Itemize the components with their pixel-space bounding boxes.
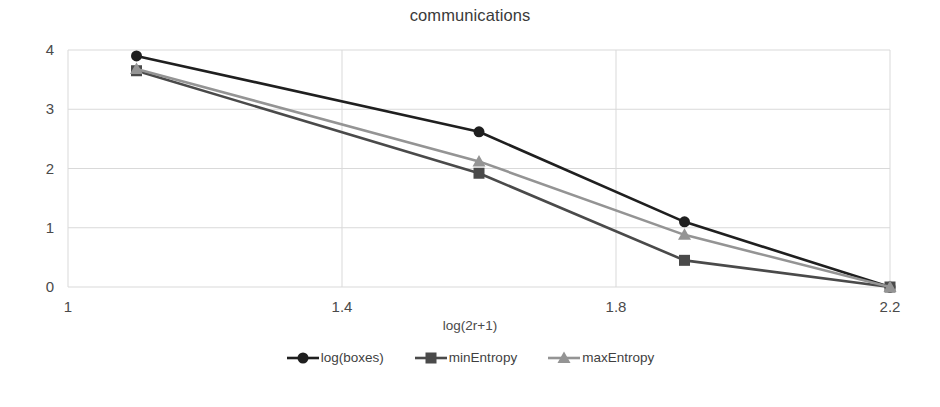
data-point-marker [679,216,690,227]
chart-legend: log(boxes)minEntropymaxEntropy [0,351,940,365]
legend-marker-triangle-icon [547,351,581,365]
legend-marker-circle-icon [286,351,320,365]
series-log(boxes) [131,50,896,292]
data-point-marker [679,255,690,266]
y-tick-label: 2 [46,160,54,177]
plot-area: 11.41.82.2 01234 log(2r+1) [0,0,940,351]
y-tick-label: 3 [46,100,54,117]
x-axis-tick-labels: 11.41.82.2 [64,298,901,315]
data-point-marker [474,168,485,179]
series-maxEntropy [130,62,897,292]
x-tick-label: 1.4 [332,298,353,315]
data-series-layer [130,50,897,292]
data-point-marker [131,50,142,61]
legend-label: minEntropy [449,351,517,365]
x-axis-title: log(2r+1) [443,318,497,333]
legend-item-log(boxes)[interactable]: log(boxes) [286,351,384,365]
x-tick-label: 2.2 [880,298,901,315]
y-tick-label: 4 [46,41,54,58]
x-tick-label: 1 [64,298,72,315]
x-tick-label: 1.8 [606,298,627,315]
chart-container: communications 11.41.82.2 01234 log(2r+1… [0,0,940,407]
data-point-marker [474,126,485,137]
y-tick-label: 0 [46,278,54,295]
legend-item-maxEntropy[interactable]: maxEntropy [547,351,654,365]
y-axis-tick-labels: 01234 [46,41,54,295]
legend-marker-square-icon [414,351,448,365]
y-tick-label: 1 [46,219,54,236]
legend-label: maxEntropy [582,351,654,365]
legend-label: log(boxes) [321,351,384,365]
legend-item-minEntropy[interactable]: minEntropy [414,351,517,365]
